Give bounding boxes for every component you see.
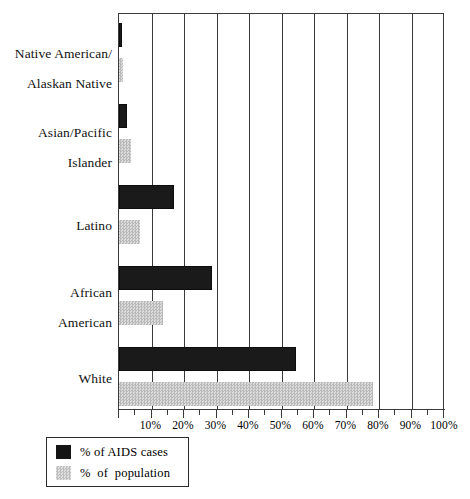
gridline-60	[314, 14, 315, 409]
bar-aids-african-american	[119, 266, 212, 290]
legend-item-population: % of population	[56, 465, 170, 481]
x-tick-major-50	[281, 409, 282, 418]
x-tick-major-10	[151, 409, 152, 418]
legend-item-aids-cases: % of AIDS cases	[56, 444, 168, 460]
x-tick-minor-95	[427, 409, 428, 415]
category-label-asian-pacific-islander: Asian/Pacific Islander	[38, 110, 112, 170]
bar-population-asian-pacific-islander	[119, 139, 131, 163]
gray-square-swatch-icon	[56, 466, 71, 480]
category-label-white: White	[79, 356, 113, 386]
category-label-line1: Latino	[76, 218, 112, 233]
bar-aids-asian-pacific-islander	[119, 104, 127, 128]
category-label-line1: White	[79, 371, 113, 386]
category-label-line1: Asian/Pacific	[38, 125, 112, 140]
bar-aids-latino	[119, 185, 174, 209]
x-tick-major-100	[443, 409, 444, 418]
x-tick-minor-85	[394, 409, 395, 415]
x-tick-major-70	[346, 409, 347, 418]
legend-label-population: % of population	[80, 466, 170, 481]
x-tick-minor-45	[264, 409, 265, 415]
gridline-80	[379, 14, 380, 409]
x-tick-minor-25	[199, 409, 200, 415]
bar-population-white	[119, 382, 373, 406]
black-square-swatch-icon	[56, 445, 71, 459]
x-tick-major-0	[118, 409, 119, 418]
bar-aids-white	[119, 347, 296, 371]
bar-population-african-american	[119, 301, 163, 325]
category-label-native-american: Native American/ Alaskan Native	[15, 31, 112, 91]
x-tick-major-20	[183, 409, 184, 418]
category-label-latino: Latino	[76, 203, 112, 233]
x-tick-major-40	[248, 409, 249, 418]
plot-area	[118, 13, 444, 409]
category-label-line2: Islander	[68, 155, 112, 170]
gridline-70	[347, 14, 348, 409]
bar-population-native-american	[119, 58, 123, 82]
x-tick-minor-55	[297, 409, 298, 415]
x-tick-major-90	[411, 409, 412, 418]
x-tick-major-80	[378, 409, 379, 418]
category-label-line2: Alaskan Native	[27, 76, 112, 91]
x-tick-major-60	[313, 409, 314, 418]
category-label-line1: Native American/	[15, 46, 112, 61]
x-tick-minor-75	[362, 409, 363, 415]
legend-label-aids-cases: % of AIDS cases	[80, 445, 168, 460]
gridline-90	[412, 14, 413, 409]
x-tick-major-30	[216, 409, 217, 418]
x-tick-minor-5	[134, 409, 135, 415]
x-axis-label-100: 100%	[424, 419, 464, 431]
bar-aids-native-american	[119, 23, 122, 47]
legend: % of AIDS cases % of population	[46, 437, 189, 487]
category-label-line2: American	[58, 315, 112, 330]
category-label-line1: African	[70, 285, 112, 300]
bar-chart: Native American/ Alaskan Native Asian/Pa…	[0, 0, 470, 499]
category-label-african-american: African American	[58, 270, 112, 330]
x-tick-minor-15	[167, 409, 168, 415]
x-tick-minor-35	[232, 409, 233, 415]
bar-population-latino	[119, 220, 140, 244]
x-tick-minor-65	[329, 409, 330, 415]
